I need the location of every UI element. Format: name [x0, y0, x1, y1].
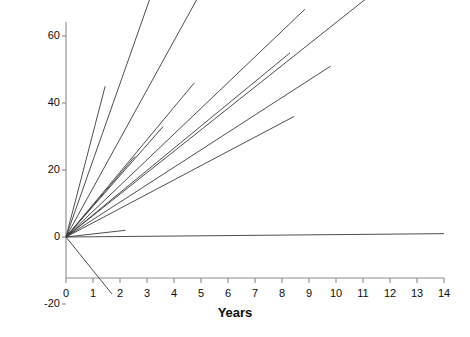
x-tick-label: 14: [424, 288, 464, 299]
y-tick-marks: [62, 0, 66, 304]
y-tick-label: 60: [20, 30, 60, 41]
data-series-lines: [66, 0, 444, 294]
y-tick-label: 20: [20, 164, 60, 175]
series-line-case-2: [66, 0, 159, 237]
series-line-case-9: [66, 66, 331, 237]
series-line-case-3: [66, 0, 197, 237]
plot-area: [0, 0, 470, 337]
axes: [62, 0, 444, 304]
x-axis-title: Years: [0, 305, 470, 320]
x-tick-marks: [66, 278, 444, 283]
y-tick-label: 40: [20, 97, 60, 108]
series-line-case-14: [66, 237, 112, 294]
y-tick-label: 0: [20, 231, 60, 242]
series-line-case-12: [66, 234, 444, 237]
iq-catch-up-chart: -2002040608090 01234567891011121314 IQ '…: [0, 0, 470, 337]
series-line-case-10: [66, 116, 294, 237]
series-line-case-7: [66, 9, 305, 237]
series-line-case-8: [66, 53, 290, 237]
series-line-case-11: [66, 0, 404, 237]
